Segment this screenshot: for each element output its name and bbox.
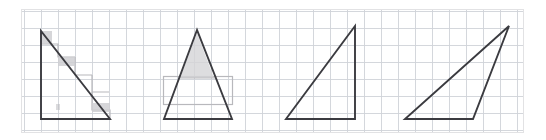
worksheet-figure [0, 0, 546, 140]
smudge-mark-left [56, 104, 60, 110]
triangles-grid-figure [0, 0, 546, 140]
grid-paper-panel [21, 9, 524, 133]
